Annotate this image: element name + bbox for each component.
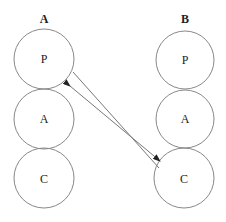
column-label-b: B bbox=[181, 12, 189, 26]
node-a-p-label: P bbox=[41, 52, 48, 66]
parallel-line bbox=[73, 72, 159, 168]
node-b-a-label: A bbox=[181, 112, 190, 126]
node-b-p-label: P bbox=[182, 53, 189, 67]
node-a-a-label: A bbox=[40, 112, 49, 126]
column-label-a: A bbox=[40, 12, 49, 26]
node-b-c-label: C bbox=[180, 172, 188, 186]
bidirectional-arrow bbox=[70, 86, 160, 161]
node-a-c-label: C bbox=[40, 172, 48, 186]
column-b: P A C bbox=[154, 31, 214, 208]
column-a: P A C bbox=[14, 29, 74, 208]
diagram: A B P A C P A C bbox=[0, 0, 226, 222]
